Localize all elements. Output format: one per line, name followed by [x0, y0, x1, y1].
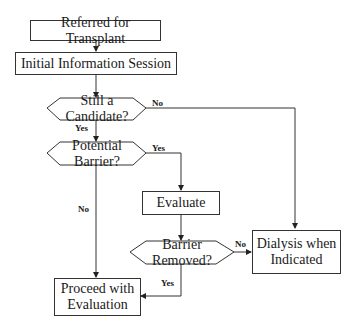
- edge-label-removed-no: No: [235, 239, 246, 249]
- node-label-line1: Potential: [72, 138, 122, 154]
- node-label-line1: Proceed with: [61, 281, 134, 297]
- node-label: Initial Information Session: [21, 56, 171, 72]
- node-still-a-candidate: Still a Candidate?: [55, 98, 139, 120]
- edge-label-removed-yes: Yes: [161, 278, 174, 288]
- node-label-line1: Dialysis when: [257, 236, 337, 252]
- node-barrier-removed: Barrier Removed?: [140, 241, 224, 264]
- edge-label-candidate-no: No: [152, 98, 163, 108]
- node-label-line1: Still a: [80, 93, 113, 109]
- node-evaluate: Evaluate: [142, 191, 220, 215]
- node-label-line2: Barrier?: [74, 154, 120, 170]
- node-label-line2: Indicated: [270, 252, 322, 268]
- flowchart-connectors: [0, 0, 352, 327]
- edge-label-candidate-yes: Yes: [75, 123, 88, 133]
- node-potential-barrier: Potential Barrier?: [55, 142, 139, 165]
- node-label-line1: Barrier: [162, 237, 202, 253]
- node-initial-information-session: Initial Information Session: [15, 52, 177, 75]
- edge-label-barrier-no: No: [78, 204, 89, 214]
- edge-label-barrier-yes: Yes: [152, 143, 165, 153]
- node-label: Referred for Transplant: [31, 15, 160, 47]
- node-dialysis-when-indicated: Dialysis when Indicated: [252, 230, 341, 274]
- node-label: Evaluate: [157, 195, 206, 211]
- node-proceed-with-evaluation: Proceed with Evaluation: [54, 278, 141, 316]
- node-label-line2: Evaluation: [67, 297, 128, 313]
- node-referred-for-transplant: Referred for Transplant: [30, 20, 161, 41]
- node-label-line2: Removed?: [152, 253, 212, 269]
